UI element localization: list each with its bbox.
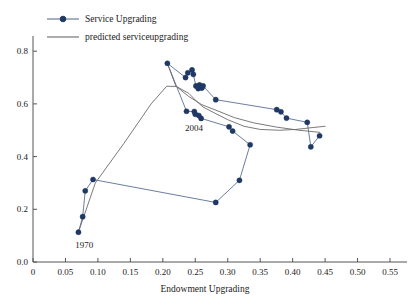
y-tick-label: 0.0 [17, 257, 29, 267]
data-point-marker [80, 214, 85, 219]
x-tick-label: 0.35 [252, 267, 268, 277]
y-tick-label: 0.4 [17, 152, 29, 162]
data-point-marker [278, 109, 283, 114]
x-tick-label: 0.10 [90, 267, 106, 277]
point-annotation: 2004 [185, 123, 204, 133]
data-point-marker [83, 188, 88, 193]
data-point-marker [305, 120, 310, 125]
data-point-marker [183, 75, 188, 80]
legend-item-label: Service Upgrading [85, 14, 157, 24]
x-tick-label: 0 [31, 267, 36, 277]
data-markers-group [76, 61, 322, 235]
y-tick-labels: 0.00.20.40.60.8 [17, 46, 29, 267]
legend-marker-swatch [60, 16, 66, 22]
x-tick-label: 0.50 [350, 267, 366, 277]
legend-item-label: predicted serviceupgrading [85, 32, 188, 42]
data-point-marker [90, 177, 95, 182]
data-point-marker [200, 83, 205, 88]
point-annotation: 1970 [75, 240, 94, 250]
data-point-marker [76, 230, 81, 235]
data-point-marker [226, 124, 231, 129]
x-tick-label: 0.40 [285, 267, 301, 277]
x-tick-label: 0.55 [382, 267, 398, 277]
data-point-marker [191, 72, 196, 77]
x-axis-title: Endowment Upgrading [161, 284, 250, 294]
scatter-line-plot: 00.050.100.150.200.250.300.350.400.450.5… [0, 0, 411, 298]
data-point-marker [213, 97, 218, 102]
data-point-marker [213, 200, 218, 205]
x-tick-label: 0.15 [122, 267, 138, 277]
legend: Service Upgradingpredicted serviceupgrad… [47, 14, 188, 42]
data-point-marker [192, 109, 197, 114]
x-tick-label: 0.20 [155, 267, 171, 277]
y-tick-label: 0.2 [17, 204, 28, 214]
data-point-marker [165, 61, 170, 66]
x-tick-label: 0.25 [187, 267, 203, 277]
data-point-marker [308, 144, 313, 149]
y-tick-label: 0.6 [17, 99, 29, 109]
y-tick-label: 0.8 [17, 46, 29, 56]
x-tick-label: 0.45 [317, 267, 333, 277]
data-point-marker [317, 133, 322, 138]
chart-figure: 00.050.100.150.200.250.300.350.400.450.5… [0, 0, 411, 298]
axes-group [33, 36, 407, 262]
series-line [78, 86, 325, 232]
data-point-marker [230, 128, 235, 133]
data-point-marker [248, 142, 253, 147]
x-tick-label: 0.05 [58, 267, 74, 277]
x-tick-labels: 00.050.100.150.200.250.300.350.400.450.5… [31, 267, 399, 277]
data-point-marker [284, 116, 289, 121]
data-point-marker [237, 178, 242, 183]
x-tick-label: 0.30 [220, 267, 236, 277]
data-point-marker [184, 109, 189, 114]
